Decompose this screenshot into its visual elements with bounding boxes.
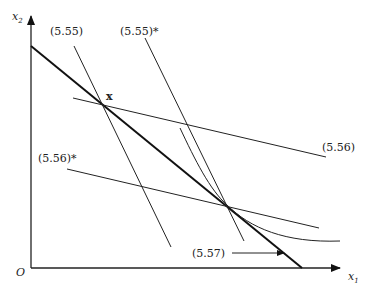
line-5-55 <box>74 46 171 247</box>
label-5-57: (5.57) <box>192 247 225 260</box>
point-x-label: x <box>106 90 113 103</box>
label-5-55: (5.55) <box>50 25 83 38</box>
label-5-56: (5.56) <box>322 141 355 154</box>
origin-label: O <box>16 266 25 279</box>
label-5-55-star: (5.55)* <box>120 25 159 38</box>
line-5-55-star <box>145 38 244 241</box>
label-5-56-star: (5.56)* <box>38 152 77 165</box>
y-axis-label: x2 <box>12 10 23 25</box>
x-axis-label: x1 <box>348 270 359 285</box>
line-5-56 <box>73 98 326 157</box>
indifference-curve <box>180 128 340 241</box>
diagram: x2 x1 O (5.55) (5.55)* (5.56) (5.56)* (5… <box>0 0 368 293</box>
